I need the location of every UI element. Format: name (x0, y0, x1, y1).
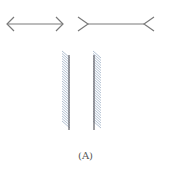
muller-lyer-arrows (7, 17, 63, 31)
muller-lyer-fins (78, 17, 154, 31)
illusion-figure (0, 0, 171, 174)
hatched-lines (62, 51, 101, 130)
figure-caption: (A) (0, 150, 171, 161)
